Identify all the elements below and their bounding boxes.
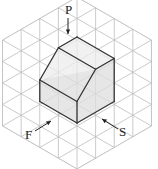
label-f: F: [25, 128, 32, 141]
arrowhead-p: [66, 29, 70, 34]
isometric-grid-figure: [0, 0, 158, 169]
label-p: P: [65, 3, 72, 16]
shaded-solid: [40, 37, 114, 123]
label-s: S: [119, 125, 126, 138]
